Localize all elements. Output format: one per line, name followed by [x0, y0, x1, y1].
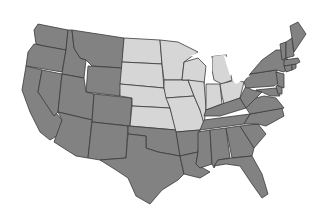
state-nd [122, 38, 162, 64]
states-layer [22, 22, 306, 204]
state-sd [120, 62, 164, 88]
us-map-container [0, 0, 329, 213]
lake-michigan [206, 58, 212, 82]
state-co [92, 94, 132, 126]
us-map [0, 0, 329, 213]
state-wi [182, 58, 206, 84]
state-wy [86, 66, 122, 96]
state-nm [88, 122, 128, 160]
state-ms [196, 130, 212, 168]
state-fl [214, 156, 268, 198]
